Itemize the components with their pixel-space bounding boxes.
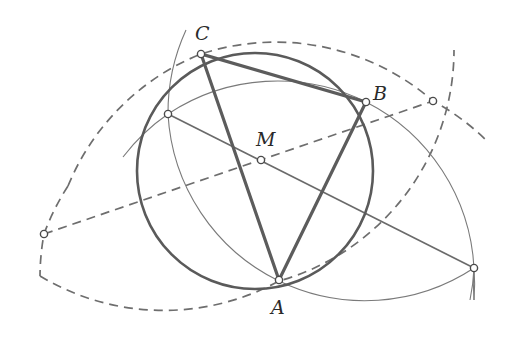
arc-center-b bbox=[168, 30, 474, 301]
label-c: C bbox=[195, 22, 210, 44]
arc-center-a bbox=[123, 81, 474, 300]
label-a: A bbox=[269, 296, 285, 318]
point-p2 bbox=[470, 264, 477, 271]
point-m bbox=[257, 156, 264, 163]
circumcircle bbox=[137, 53, 373, 289]
label-b: B bbox=[372, 82, 387, 104]
point-p3 bbox=[40, 230, 47, 237]
point-a bbox=[275, 276, 282, 283]
dashed-arc-center-c bbox=[40, 50, 454, 310]
point-c bbox=[197, 50, 204, 57]
point-b bbox=[362, 98, 369, 105]
point-p4 bbox=[429, 97, 436, 104]
dashed-arc-center-a bbox=[68, 42, 486, 186]
geometry-diagram: C B M A bbox=[0, 0, 511, 337]
point-p1 bbox=[164, 110, 171, 117]
label-m: M bbox=[255, 128, 276, 150]
